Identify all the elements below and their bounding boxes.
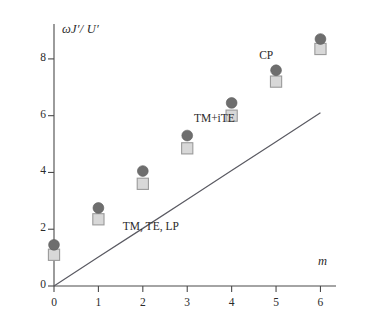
data-marker-circle bbox=[137, 166, 148, 177]
x-tick-label: 4 bbox=[222, 296, 242, 308]
x-tick-label: 1 bbox=[88, 296, 108, 308]
data-marker-circle bbox=[49, 239, 60, 250]
data-marker-circle bbox=[93, 203, 104, 214]
series-markers-tm-ite bbox=[49, 34, 326, 251]
scatter-plot-canvas bbox=[0, 0, 368, 317]
data-marker-circle bbox=[315, 34, 326, 45]
x-tick-label: 3 bbox=[177, 296, 197, 308]
data-marker-square bbox=[48, 249, 59, 260]
series-markers-cp bbox=[48, 43, 326, 260]
series-annotation: CP bbox=[259, 49, 273, 61]
x-tick-label: 0 bbox=[44, 296, 64, 308]
y-tick-label: 0 bbox=[34, 278, 46, 290]
x-axis-label: m bbox=[318, 254, 327, 269]
data-marker-circle bbox=[226, 98, 237, 109]
x-tick-label: 6 bbox=[310, 296, 330, 308]
x-tick-label: 5 bbox=[266, 296, 286, 308]
y-tick-label: 2 bbox=[34, 221, 46, 233]
x-axis-ticks bbox=[54, 286, 320, 292]
y-tick-label: 8 bbox=[34, 51, 46, 63]
data-marker-square bbox=[182, 143, 193, 154]
y-tick-label: 4 bbox=[34, 164, 46, 176]
data-marker-circle bbox=[182, 130, 193, 141]
y-axis-label: ωJ′/ U′ bbox=[62, 22, 99, 37]
data-marker-square bbox=[315, 43, 326, 54]
data-marker-square bbox=[270, 76, 281, 87]
series-annotation: TM+iTE bbox=[194, 112, 235, 124]
series-annotation: TM, TE, LP bbox=[123, 220, 179, 232]
data-marker-square bbox=[137, 178, 148, 189]
axes-group bbox=[54, 24, 336, 286]
data-marker-circle bbox=[271, 65, 282, 76]
data-marker-square bbox=[93, 214, 104, 225]
x-tick-label: 2 bbox=[133, 296, 153, 308]
y-tick-label: 6 bbox=[34, 108, 46, 120]
